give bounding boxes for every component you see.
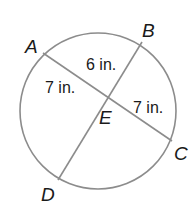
intersecting-chords-diagram: A B C D E 6 in. 7 in. 7 in. [0,0,196,215]
point-label-e: E [99,107,112,128]
point-label-a: A [24,36,38,57]
point-label-c: C [174,143,188,164]
point-label-b: B [142,20,155,41]
length-label-eb: 6 in. [86,56,116,73]
length-label-ec: 7 in. [133,99,163,116]
point-label-d: D [41,184,55,205]
length-label-ae: 7 in. [45,79,75,96]
